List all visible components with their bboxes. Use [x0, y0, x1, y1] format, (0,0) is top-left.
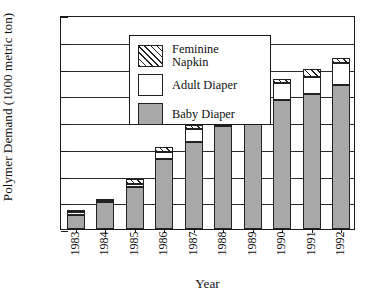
bar-1991: [303, 15, 321, 229]
bar-segment-feminine-napkin-1986: [155, 147, 173, 152]
bar-segment-adult-diaper-1985: [126, 184, 144, 187]
bar-segment-adult-diaper-1990: [273, 83, 291, 100]
bar-segment-adult-diaper-1987: [185, 129, 203, 142]
bar-1984: [96, 15, 114, 229]
bar-segment-baby-diaper-1991: [303, 94, 321, 229]
bar-segment-baby-diaper-1987: [185, 142, 203, 229]
bar-segment-baby-diaper-1986: [155, 159, 173, 229]
x-axis-tick-label-1987: 1987: [178, 236, 208, 251]
x-axis-tick-label-1991: 1991: [296, 236, 326, 251]
legend-item-feminine-napkin: FeminineNapkin: [138, 42, 270, 70]
bar-segment-baby-diaper-1990: [273, 100, 291, 229]
legend-swatch-baby-diaper: [138, 103, 163, 125]
legend-swatch-feminine-napkin: [138, 45, 163, 67]
bar-1992: [332, 15, 350, 229]
x-axis-tick-label-1985: 1985: [119, 236, 149, 251]
x-axis-tick-label-1990: 1990: [266, 236, 296, 251]
x-axis-tick-label-1989: 1989: [237, 236, 267, 251]
bar-segment-adult-diaper-1992: [332, 63, 350, 85]
x-axis-tick-label-1983: 1983: [60, 236, 90, 251]
bar-segment-baby-diaper-1984: [96, 202, 114, 229]
bar-segment-adult-diaper-1991: [303, 77, 321, 94]
bar-segment-adult-diaper-1983: [67, 212, 85, 215]
bar-segment-feminine-napkin-1985: [126, 179, 144, 184]
bar-segment-feminine-napkin-1984: [96, 199, 114, 201]
y-axis-title-text: Polymer Demand (1000 metric ton): [0, 13, 16, 201]
plot-area: FeminineNapkin Adult Diaper Baby Diaper: [60, 16, 355, 230]
x-axis-tick-label-1988: 1988: [207, 236, 237, 251]
x-axis-tick-label-1986: 1986: [148, 236, 178, 251]
legend-item-adult-diaper: Adult Diaper: [138, 71, 270, 99]
chart-legend: FeminineNapkin Adult Diaper Baby Diaper: [129, 35, 271, 125]
bar-segment-feminine-napkin-1990: [273, 79, 291, 83]
bar-1990: [273, 15, 291, 229]
legend-item-baby-diaper: Baby Diaper: [138, 100, 270, 128]
bar-segment-baby-diaper-1988: [214, 126, 232, 229]
legend-swatch-adult-diaper: [138, 74, 163, 96]
bar-segment-feminine-napkin-1991: [303, 69, 321, 77]
bar-segment-feminine-napkin-1983: [67, 210, 85, 212]
x-axis-tick-label-1992: 1992: [325, 236, 355, 251]
bar-segment-adult-diaper-1986: [155, 152, 173, 159]
bar-segment-feminine-napkin-1992: [332, 58, 350, 63]
polymer-demand-stacked-bar-chart: Polymer Demand (1000 metric ton) 0510152…: [0, 0, 377, 299]
legend-label-adult-diaper: Adult Diaper: [172, 79, 237, 92]
bar-1983: [67, 15, 85, 229]
bar-segment-baby-diaper-1992: [332, 85, 350, 229]
legend-label-baby-diaper: Baby Diaper: [172, 108, 235, 121]
x-axis-title: Year: [60, 276, 355, 292]
bar-segment-baby-diaper-1983: [67, 215, 85, 229]
bar-segment-baby-diaper-1985: [126, 187, 144, 229]
x-axis-tick-label-1984: 1984: [89, 236, 119, 251]
y-axis-title: Polymer Demand (1000 metric ton): [0, 0, 19, 214]
legend-label-feminine-napkin: FeminineNapkin: [172, 43, 219, 69]
